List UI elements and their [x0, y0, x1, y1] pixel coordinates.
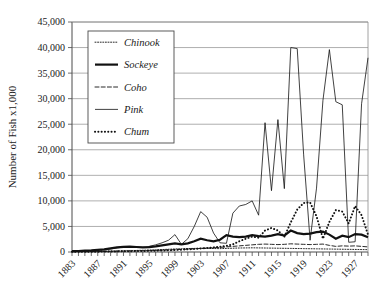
x-tick-label: 1919 [287, 258, 309, 280]
y-tick-label: 25,000 [38, 119, 66, 130]
y-tick-label: 15,000 [38, 170, 66, 181]
legend-label-sockeye: Sockeye [124, 59, 158, 70]
y-tick-label: 10,000 [38, 195, 66, 206]
y-axis-title: Number of Fish x1,000 [6, 85, 18, 188]
x-tick-label: 1915 [261, 258, 283, 280]
y-tick-label: 0 [60, 246, 65, 257]
legend-label-coho: Coho [124, 82, 147, 93]
y-tick-label: 45,000 [38, 16, 66, 27]
chart-legend: ChinookSockeyeCohoPinkChum [88, 31, 174, 143]
x-axis-tick-labels: 1883188718911895189919031907191119151919… [55, 258, 360, 280]
salmon-catch-line-chart: 05,00010,00015,00020,00025,00030,00035,0… [0, 0, 383, 300]
legend-label-chum: Chum [124, 126, 150, 137]
legend-label-chinook: Chinook [124, 37, 160, 48]
x-tick-label: 1907 [210, 258, 232, 280]
x-tick-label: 1895 [133, 258, 155, 280]
y-tick-label: 30,000 [38, 93, 66, 104]
y-tick-label: 5,000 [43, 221, 66, 232]
x-tick-label: 1927 [339, 258, 361, 280]
x-axis-tick-marks [72, 252, 368, 256]
x-tick-label: 1891 [107, 258, 129, 280]
x-tick-label: 1883 [55, 258, 77, 280]
x-tick-label: 1911 [236, 258, 258, 280]
y-tick-label: 35,000 [38, 68, 66, 79]
x-tick-label: 1899 [158, 258, 180, 280]
x-tick-label: 1903 [184, 258, 206, 280]
y-tick-label: 20,000 [38, 144, 66, 155]
y-axis-tick-marks [68, 22, 72, 252]
x-tick-label: 1887 [81, 258, 103, 280]
y-axis-tick-labels: 05,00010,00015,00020,00025,00030,00035,0… [38, 16, 66, 257]
x-tick-label: 1923 [313, 258, 335, 280]
y-tick-label: 40,000 [38, 42, 66, 53]
chart-container: 05,00010,00015,00020,00025,00030,00035,0… [0, 0, 383, 300]
legend-label-pink: Pink [123, 104, 144, 115]
